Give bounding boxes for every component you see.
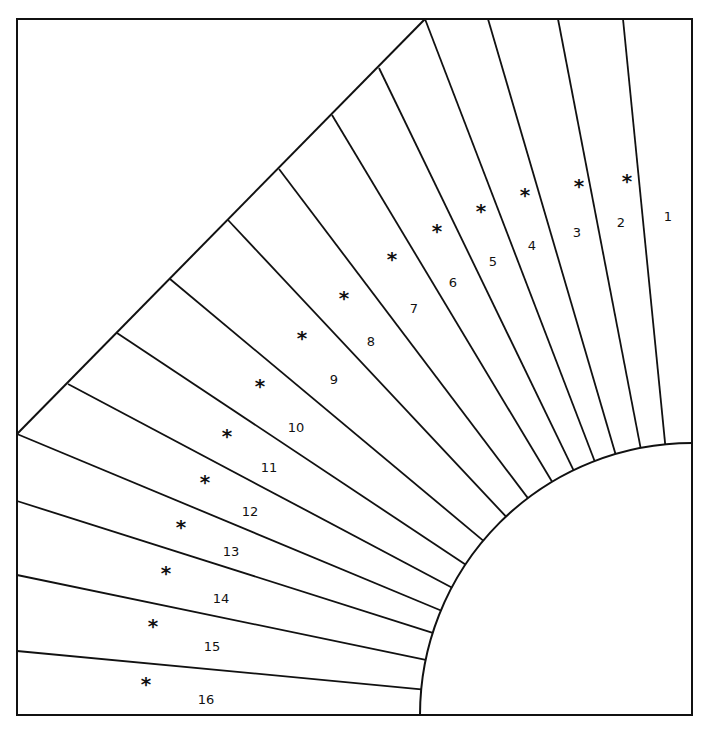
- segment-number: 5: [489, 254, 497, 269]
- asterisk-mark: *: [141, 672, 152, 696]
- segment-number: 1: [664, 209, 672, 224]
- asterisk-mark: *: [520, 183, 531, 207]
- segment-labels: 12*3*4*5*6*7*8*9*10*11*12*13*14*15*16*: [141, 169, 672, 707]
- ray-line: [117, 333, 465, 565]
- fan-quilt-diagram: 12*3*4*5*6*7*8*9*10*11*12*13*14*15*16*: [0, 0, 708, 744]
- asterisk-mark: *: [161, 561, 172, 585]
- ray-line: [332, 115, 552, 482]
- segment-number: 15: [204, 639, 221, 654]
- asterisk-mark: *: [622, 169, 633, 193]
- asterisk-mark: *: [432, 219, 443, 243]
- segment-number: 10: [288, 420, 305, 435]
- ray-line: [17, 651, 421, 689]
- diagonal-edge: [17, 19, 425, 434]
- segment-number: 11: [261, 460, 278, 475]
- ray-lines: [17, 19, 665, 689]
- ray-line: [623, 19, 665, 444]
- asterisk-mark: *: [387, 247, 398, 271]
- asterisk-mark: *: [574, 174, 585, 198]
- segment-number: 2: [617, 215, 625, 230]
- asterisk-mark: *: [148, 614, 159, 638]
- asterisk-mark: *: [339, 286, 350, 310]
- asterisk-mark: *: [297, 326, 308, 350]
- segment-number: 7: [410, 301, 418, 316]
- ray-line: [558, 19, 641, 448]
- ray-line: [279, 169, 528, 498]
- segment-number: 16: [198, 692, 215, 707]
- segment-number: 14: [213, 591, 230, 606]
- segment-number: 12: [242, 504, 259, 519]
- ray-line: [68, 384, 452, 588]
- asterisk-mark: *: [200, 470, 211, 494]
- ray-line: [488, 19, 616, 454]
- asterisk-mark: *: [222, 424, 233, 448]
- segment-number: 4: [528, 238, 536, 253]
- segment-number: 9: [330, 372, 338, 387]
- asterisk-mark: *: [476, 199, 487, 223]
- asterisk-mark: *: [255, 374, 266, 398]
- ray-line: [379, 68, 574, 470]
- ray-line: [17, 575, 426, 660]
- segment-number: 6: [449, 275, 457, 290]
- ray-line: [170, 279, 483, 541]
- segment-number: 8: [367, 334, 375, 349]
- asterisk-mark: *: [176, 515, 187, 539]
- ray-line: [17, 434, 441, 611]
- quarter-circle-arc: [420, 443, 692, 715]
- segment-number: 13: [223, 544, 240, 559]
- segment-number: 3: [573, 225, 581, 240]
- inner-quarter-circle: [420, 443, 692, 715]
